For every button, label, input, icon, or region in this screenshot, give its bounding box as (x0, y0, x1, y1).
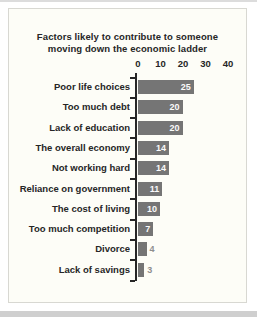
bar: 25 (138, 80, 194, 94)
y-axis-tick (130, 219, 135, 221)
bar (138, 242, 147, 256)
bar-row: The overall economy14 (9, 141, 246, 155)
y-axis-tick (130, 280, 135, 282)
page: { "page": { "background": "#ffffff", "to… (0, 0, 257, 317)
category-label: The cost of living (9, 202, 130, 216)
category-label: Poor life choices (9, 80, 130, 94)
y-axis-tick (130, 97, 135, 99)
bar-row: Too much debt20 (9, 100, 246, 114)
y-axis-tick (130, 158, 135, 160)
value-label: 20 (169, 121, 179, 135)
category-label: Too much debt (9, 100, 130, 114)
bar-row: Lack of education20 (9, 121, 246, 135)
value-label: 4 (150, 242, 155, 256)
bar-row: Not working hard14 (9, 161, 246, 175)
value-label: 10 (147, 202, 157, 216)
y-axis-tick (130, 117, 135, 119)
category-label: Reliance on government (9, 182, 130, 196)
value-label: 3 (147, 263, 152, 277)
bar: 20 (138, 100, 183, 114)
bar-row: Divorce4 (9, 242, 246, 256)
value-label: 25 (181, 80, 191, 94)
plot-area: Poor life choices25Too much debt20Lack o… (9, 9, 246, 302)
bar: 20 (138, 121, 183, 135)
y-axis-tick (130, 137, 135, 139)
bar: 11 (138, 182, 163, 196)
category-label: The overall economy (9, 141, 130, 155)
bar-row: Poor life choices25 (9, 80, 246, 94)
category-label: Too much competition (9, 222, 130, 236)
bar: 10 (138, 202, 161, 216)
bar (138, 263, 145, 277)
page-top-edge (0, 0, 257, 2)
chart-panel: Factors likely to contribute to someone … (8, 8, 247, 303)
bar-row: Lack of savings3 (9, 263, 246, 277)
y-axis-tick (130, 198, 135, 200)
bar-row: The cost of living10 (9, 202, 246, 216)
category-label: Not working hard (9, 161, 130, 175)
value-label: 14 (156, 141, 166, 155)
value-label: 11 (150, 182, 160, 196)
value-label: 20 (169, 100, 179, 114)
bar-row: Reliance on government11 (9, 182, 246, 196)
bar-row: Too much competition7 (9, 222, 246, 236)
bar: 14 (138, 161, 170, 175)
y-axis-tick (130, 239, 135, 241)
value-label: 14 (156, 161, 166, 175)
y-axis-tick (130, 259, 135, 261)
y-axis-tick (130, 77, 135, 79)
category-label: Divorce (9, 242, 130, 256)
y-axis-tick (130, 178, 135, 180)
category-label: Lack of savings (9, 263, 130, 277)
category-label: Lack of education (9, 121, 130, 135)
bar: 7 (138, 222, 154, 236)
bar: 14 (138, 141, 170, 155)
value-label: 7 (145, 222, 150, 236)
page-bottom-edge (0, 311, 257, 317)
